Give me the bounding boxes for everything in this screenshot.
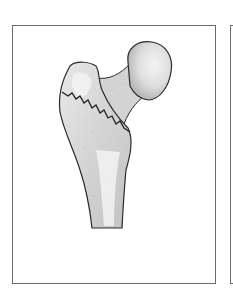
femoral-head: [128, 42, 172, 100]
femur-fracture-illustration: [0, 0, 233, 300]
